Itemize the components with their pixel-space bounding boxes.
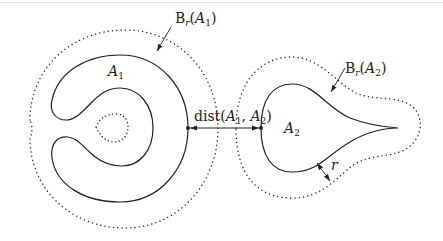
distance-point-a1 bbox=[186, 126, 190, 130]
label-neighborhood-a1: Br(A1) bbox=[175, 10, 216, 28]
label-radius: r bbox=[331, 157, 338, 173]
label-set-a2: A2 bbox=[284, 120, 300, 138]
pointer-arrow-neighborhood-a2 bbox=[331, 68, 345, 92]
label-distance: dist(A1, A2) bbox=[194, 108, 272, 126]
label-set-a1: A1 bbox=[108, 63, 124, 81]
label-neighborhood-a2: Br(A2) bbox=[345, 60, 386, 78]
radius-arrow bbox=[317, 163, 330, 181]
pointer-arrow-neighborhood-a1 bbox=[157, 27, 171, 51]
neighborhood-a1-outer-boundary bbox=[30, 30, 218, 228]
set-a2-boundary bbox=[261, 84, 398, 172]
distance-point-a2 bbox=[259, 126, 263, 130]
neighborhood-a1-inner-boundary bbox=[96, 114, 128, 142]
